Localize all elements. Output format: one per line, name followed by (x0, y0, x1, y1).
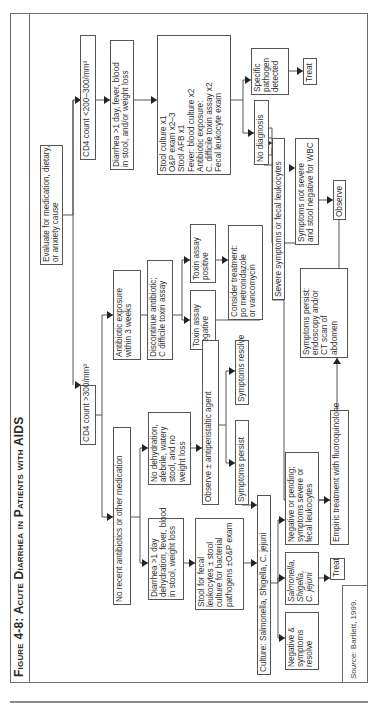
box-observe: Observe (333, 180, 346, 220)
box-no-diagnosis: No diagnosis (254, 100, 269, 165)
box-stool-fecal: Stool for fecalleukocytes ± stoolculture… (195, 518, 244, 610)
box-negative-pending: Negative or pending;symptoms severe orfe… (285, 452, 319, 545)
page-rule (10, 701, 368, 703)
box-empiric-treatment: Empiric treatment with fluoroquinolone (330, 410, 349, 545)
box-observe-antiperistaltic: Observe ± antiperistaltic agent (202, 340, 219, 505)
connector-cd4high-split (95, 315, 113, 517)
box-toxin-positive: Toxin assaypositive (190, 224, 216, 283)
box-consider-treatment: Consider treatment:po metronidazoleor va… (228, 225, 263, 320)
box-cd4-high: CD4 count >300/mm³ (80, 385, 96, 445)
box-specific-pathogen: Specificpathogendetected (251, 48, 289, 95)
source-label: Source: (349, 651, 358, 679)
box-no-recent-antibiotics: No recent antibiotics or other medicatio… (113, 427, 131, 605)
box-treat-top: Treat (303, 58, 317, 85)
box-no-dehydration: No dehydration,afebrile, waterystool, an… (148, 412, 191, 485)
culture-text: Culture: Salmonella, Shigella, C. jejuni (259, 533, 268, 672)
box-persist-endoscopy: Symptoms persist:endoscopy and/orCT scan… (300, 268, 348, 358)
box-treat-bottom: Treat (330, 558, 345, 580)
box-symptoms-persist: Symptoms persist (235, 420, 249, 505)
box-evaluate: Evaluate for medication, dietary,or anxi… (40, 145, 63, 265)
box-stool-workup: Stool culture x1O&P exam x2–3Stool AFB x… (157, 35, 231, 175)
box-severe-symptoms: Severe symptoms or fecal leukocytes (272, 138, 285, 300)
connector-observe-split (218, 371, 235, 463)
connector-evaluate-trunk (62, 100, 80, 215)
connector-discontinue-toxin (172, 260, 190, 320)
box-salmonella: Salmonella,Shigella,C. jejuni (285, 552, 319, 605)
box-symptoms-resolve: Symptoms resolve (235, 340, 249, 405)
box-diarrhea-dehydration: Diarrhea >1 daydehydration, fever, blood… (148, 518, 184, 600)
box-cd4-low: CD4 count <200–300/mm³ (80, 35, 96, 160)
box-culture: Culture: Salmonella, Shigella, C. jejuni (257, 495, 271, 675)
box-diarrhea-fever: Diarrhea >1 day, fever, bloodin stool, a… (110, 40, 134, 170)
box-discontinue: Discontinue antibiotic;C difficile toxin… (147, 260, 173, 360)
source-text: Bartlett, 1999. (349, 599, 358, 649)
connector-norecent-split (130, 448, 148, 563)
flowchart-figure: Figure 4-8: Acute Diarrhea in Patients w… (10, 13, 368, 683)
box-not-severe: Symptoms not severeand stool negative fo… (295, 138, 319, 245)
source-note: Source: Bartlett, 1999. (342, 585, 368, 683)
box-negative-resolve: Negative &symptomsresolve (285, 612, 319, 670)
arrow-empiric-persist (333, 358, 341, 364)
box-antibiotic-exposure: Antibiotic exposurewithin 3 weeks (113, 270, 141, 360)
